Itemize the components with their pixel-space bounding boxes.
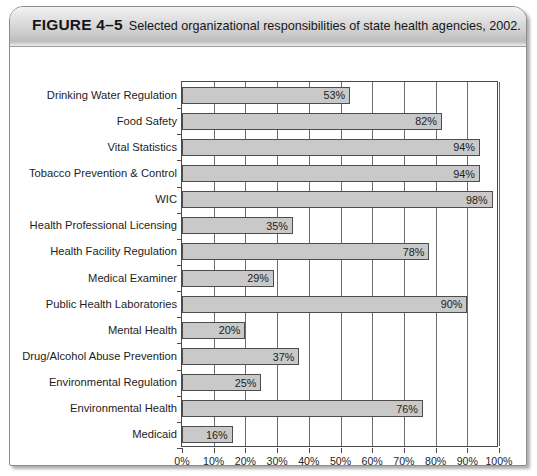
category-label: Environmental Health <box>0 403 177 414</box>
bar: 25% <box>182 374 261 391</box>
bar-row: 16% <box>182 426 499 443</box>
figure-header: FIGURE 4–5Selected organizational respon… <box>10 7 526 47</box>
x-axis-tick <box>404 448 405 453</box>
gridline <box>245 82 246 446</box>
category-label: Health Facility Regulation <box>0 246 177 257</box>
figure-card: FIGURE 4–5Selected organizational respon… <box>9 6 527 466</box>
bar-row: 35% <box>182 217 499 234</box>
category-labels: Drinking Water RegulationFood SafetyVita… <box>0 82 177 448</box>
bar: 78% <box>182 243 429 260</box>
plot-area: 0%10%20%30%40%50%60%70%80%90%100% 53%82%… <box>181 81 498 447</box>
bar-value-label: 29% <box>247 273 269 284</box>
bar-row: 90% <box>182 296 499 313</box>
x-axis-tick <box>214 448 215 453</box>
bar-row: 25% <box>182 374 499 391</box>
y-axis-tick <box>177 134 182 135</box>
bar-row: 94% <box>182 139 499 156</box>
bar-row: 37% <box>182 348 499 365</box>
gridline <box>341 82 342 446</box>
category-label: Tobacco Prevention & Control <box>0 168 177 179</box>
bar-value-label: 53% <box>323 90 345 101</box>
bar-row: 82% <box>182 113 499 130</box>
bar: 82% <box>182 113 442 130</box>
gridline <box>214 82 215 446</box>
y-axis-tick <box>177 343 182 344</box>
gridline <box>499 82 500 446</box>
figure-caption-block: FIGURE 4–5Selected organizational respon… <box>32 16 512 34</box>
bar-row: 98% <box>182 191 499 208</box>
y-axis-tick <box>177 187 182 188</box>
bar-row: 76% <box>182 400 499 417</box>
y-axis-tick <box>177 422 182 423</box>
bar: 53% <box>182 87 350 104</box>
x-axis-tick <box>182 448 183 453</box>
bar: 37% <box>182 348 299 365</box>
figure-number: FIGURE 4–5 <box>32 16 123 33</box>
y-axis-tick <box>177 213 182 214</box>
y-axis-tick <box>177 265 182 266</box>
figure-caption-text: Selected organizational responsibilities… <box>129 19 521 33</box>
bar-value-label: 94% <box>453 142 475 153</box>
x-axis-tick <box>499 448 500 453</box>
bar-value-label: 76% <box>396 403 418 414</box>
y-axis-tick <box>177 370 182 371</box>
bar-value-label: 20% <box>219 325 241 336</box>
bar: 20% <box>182 322 245 339</box>
gridline <box>309 82 310 446</box>
x-axis-tick <box>277 448 278 453</box>
bar-value-label: 82% <box>415 116 437 127</box>
category-label: Health Professional Licensing <box>0 220 177 231</box>
category-label: Mental Health <box>0 325 177 336</box>
bar: 76% <box>182 400 423 417</box>
bar-row: 94% <box>182 165 499 182</box>
y-axis-tick <box>177 317 182 318</box>
x-axis-tick <box>372 448 373 453</box>
category-label: WIC <box>0 194 177 205</box>
gridline <box>372 82 373 446</box>
bar: 94% <box>182 165 480 182</box>
bar-value-label: 98% <box>466 194 488 205</box>
y-axis-tick <box>177 108 182 109</box>
y-axis-tick <box>177 239 182 240</box>
bar-row: 29% <box>182 270 499 287</box>
bar: 35% <box>182 217 293 234</box>
gridline <box>277 82 278 446</box>
gridline <box>436 82 437 446</box>
bar-chart: 0%10%20%30%40%50%60%70%80%90%100% 53%82%… <box>10 47 526 466</box>
category-label: Drug/Alcohol Abuse Prevention <box>0 351 177 362</box>
x-axis-tick <box>309 448 310 453</box>
y-axis-tick <box>177 396 182 397</box>
bar-value-label: 94% <box>453 168 475 179</box>
category-label: Food Safety <box>0 116 177 127</box>
bar-row: 20% <box>182 322 499 339</box>
bar: 29% <box>182 270 274 287</box>
category-label: Drinking Water Regulation <box>0 90 177 101</box>
gridline <box>404 82 405 446</box>
x-axis-tick <box>341 448 342 453</box>
category-label: Public Health Laboratories <box>0 299 177 310</box>
bar-value-label: 78% <box>403 247 425 258</box>
x-axis-tick <box>245 448 246 453</box>
bar-row: 78% <box>182 243 499 260</box>
category-label: Vital Statistics <box>0 142 177 153</box>
bar: 16% <box>182 426 233 443</box>
bar: 98% <box>182 191 493 208</box>
bar-row: 53% <box>182 87 499 104</box>
bar: 90% <box>182 296 467 313</box>
category-label: Environmental Regulation <box>0 377 177 388</box>
x-axis-tick-label: 100% <box>476 455 522 467</box>
bar: 94% <box>182 139 480 156</box>
gridline <box>467 82 468 446</box>
bar-value-label: 35% <box>266 220 288 231</box>
bar-value-label: 25% <box>235 377 257 388</box>
y-axis-tick <box>177 160 182 161</box>
y-axis-tick <box>177 291 182 292</box>
bar-value-label: 90% <box>441 299 463 310</box>
category-label: Medicaid <box>0 429 177 440</box>
bar-value-label: 37% <box>273 351 295 362</box>
x-axis-tick <box>436 448 437 453</box>
y-axis-tick <box>177 448 182 449</box>
x-axis-tick <box>467 448 468 453</box>
category-label: Medical Examiner <box>0 273 177 284</box>
bar-value-label: 16% <box>206 430 228 441</box>
